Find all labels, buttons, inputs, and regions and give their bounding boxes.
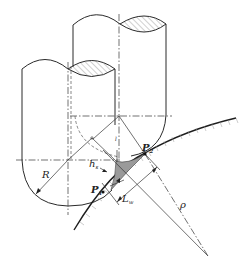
- radius-R-line: [36, 160, 68, 194]
- normal-line: [103, 150, 208, 256]
- rear-cutter-section-hatch: [118, 10, 168, 42]
- label-axis-mark: l: [115, 136, 117, 142]
- label-Lw: Lw: [121, 193, 134, 205]
- front-cutter-section-hatch: [66, 54, 118, 86]
- front-cutter-top-arc: [22, 60, 68, 70]
- label-rho: ρ: [179, 199, 186, 210]
- radius-line-upper: [68, 138, 92, 160]
- front-cutter: [16, 54, 120, 215]
- ball-end-cutter-diagram: R ρ hs Lw P1 P2 l: [0, 0, 242, 266]
- surface-curve: [74, 118, 236, 230]
- workpiece-surface: [74, 118, 238, 230]
- label-p2: P2: [141, 142, 154, 154]
- label-R: R: [41, 169, 50, 180]
- rear-cutter-top-arc: [73, 15, 120, 25]
- construction-lines: [36, 116, 208, 256]
- front-cutter-normal: [92, 138, 116, 161]
- front-cutter-ball-end: [22, 160, 112, 206]
- Lw-arrow-upper: [152, 167, 157, 173]
- radius-arrowhead: [36, 188, 41, 194]
- Lw-extension-lower: [102, 183, 119, 205]
- label-p1: P1: [90, 184, 102, 196]
- Lw-extension-upper: [145, 154, 160, 170]
- rear-cutter: [70, 10, 172, 160]
